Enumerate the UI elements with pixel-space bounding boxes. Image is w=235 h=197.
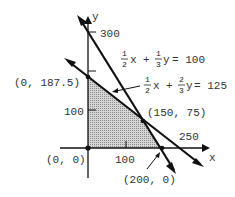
pointer-line2 xyxy=(116,86,140,91)
arrowhead-line1-top xyxy=(77,15,87,26)
svg-text:2: 2 xyxy=(122,60,127,69)
lp-diagram: y x 300 100 100 250 (0, 187.5) (0, 0) (1… xyxy=(0,0,235,197)
vertex-label-0-0: (0, 0) xyxy=(46,154,86,166)
vertex-origin xyxy=(85,145,90,150)
x-tick-label-100: 100 xyxy=(115,154,135,166)
pointer-line2-head xyxy=(112,88,118,93)
vertex-label-0-187.5: (0, 187.5) xyxy=(14,77,80,89)
svg-text:1: 1 xyxy=(145,75,150,84)
svg-text:x: x xyxy=(130,54,137,66)
svg-text:y: y xyxy=(186,80,193,92)
svg-text:2: 2 xyxy=(179,75,184,84)
svg-text:2: 2 xyxy=(145,86,150,95)
vertex-label-200-0: (200, 0) xyxy=(123,174,176,186)
svg-text:3: 3 xyxy=(156,60,161,69)
svg-text:1: 1 xyxy=(122,49,127,58)
svg-text:= 125: = 125 xyxy=(194,80,227,92)
vertex-label-150-75: (150, 75) xyxy=(147,107,206,119)
svg-text:= 100: = 100 xyxy=(172,54,205,66)
svg-text:+: + xyxy=(143,54,150,66)
svg-text:3: 3 xyxy=(179,86,184,95)
svg-text:x: x xyxy=(153,80,160,92)
vertex-y-intercept xyxy=(86,75,91,80)
svg-text:y: y xyxy=(163,54,170,66)
equation-line1: 1 2 x + 1 3 y = 100 xyxy=(121,49,205,69)
y-tick-label-100: 100 xyxy=(64,106,84,118)
arrowhead-line1-bottom xyxy=(166,162,176,174)
svg-text:1: 1 xyxy=(156,49,161,58)
svg-text:+: + xyxy=(166,80,173,92)
y-axis-label: y xyxy=(92,11,99,23)
vertex-intersection xyxy=(141,119,146,124)
x-axis-label: x xyxy=(209,152,216,164)
equation-line2: 1 2 x + 2 3 y = 125 xyxy=(144,75,227,95)
x-tick-label-250: 250 xyxy=(179,131,199,143)
y-tick-label-300: 300 xyxy=(100,28,120,40)
vertex-x-intercept xyxy=(160,146,165,151)
pointer-200-0 xyxy=(147,155,158,169)
